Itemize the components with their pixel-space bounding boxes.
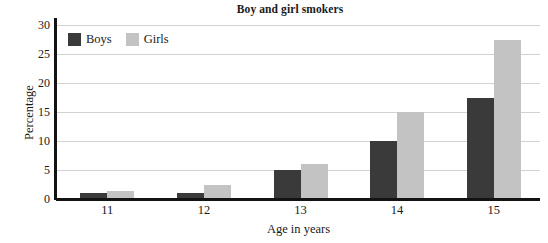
bar-boys-14 [370,141,397,199]
chart-legend: BoysGirls [68,33,169,46]
y-axis-tick-label: 30 [26,19,50,31]
y-axis-line [54,18,57,200]
legend-label: Boys [86,33,112,46]
legend-swatch-icon [68,33,81,46]
x-axis-tick-label: 12 [174,204,234,217]
gridline [57,25,540,26]
x-axis-tick-label: 13 [271,204,331,217]
x-axis-line [56,198,540,201]
bar-girls-12 [204,185,231,200]
plot-area [57,25,540,199]
y-axis-tick-label: 25 [26,48,50,60]
x-axis-tick-label: 14 [367,204,427,217]
gridline [57,54,540,55]
bar-boys-13 [274,170,301,199]
x-axis-tick-label: 11 [77,204,137,217]
bar-girls-15 [494,40,521,200]
y-axis-tick-label: 20 [26,77,50,89]
y-axis-tick-label: 15 [26,106,50,118]
legend-label: Girls [144,33,169,46]
y-axis-tick-label: 0 [26,193,50,205]
legend-swatch-icon [126,33,139,46]
chart-title: Boy and girl smokers [56,3,524,15]
legend-item-girls: Girls [126,33,169,46]
bar-chart: Boy and girl smokers Percentage 05101520… [0,0,548,243]
gridline [57,83,540,84]
x-axis-tick-label: 15 [464,204,524,217]
bar-girls-13 [301,164,328,199]
y-axis-tick-labels: 051015202530 [24,25,50,199]
bar-boys-15 [467,98,494,200]
bar-girls-14 [397,112,424,199]
y-axis-tick-label: 10 [26,135,50,147]
x-axis-title: Age in years [57,222,540,237]
legend-item-boys: Boys [68,33,112,46]
y-axis-tick-label: 5 [26,164,50,176]
